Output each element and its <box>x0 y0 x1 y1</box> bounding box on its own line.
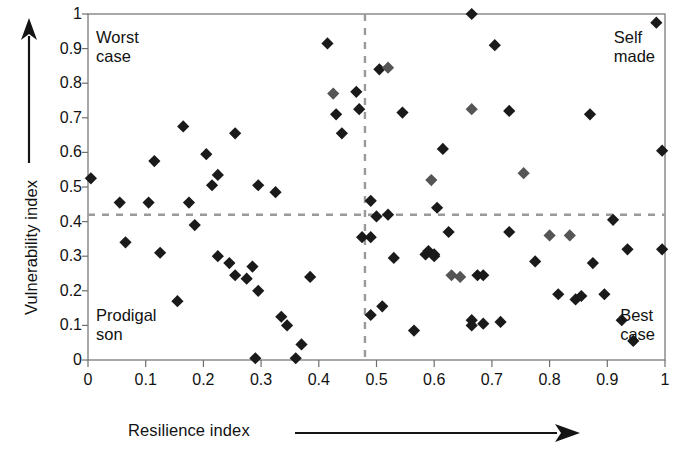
x-tick-label: 0.3 <box>238 372 284 388</box>
x-tick-label: 1 <box>642 372 673 388</box>
data-point <box>382 62 394 74</box>
x-tick-label: 0.8 <box>527 372 573 388</box>
data-point <box>365 231 377 243</box>
data-point <box>382 209 394 221</box>
data-point <box>388 252 400 264</box>
plot-canvas <box>0 0 673 400</box>
data-point <box>189 219 201 231</box>
data-point-group <box>85 8 668 364</box>
data-point <box>304 271 316 283</box>
data-point <box>445 269 457 281</box>
data-point <box>587 257 599 269</box>
data-point <box>650 17 662 29</box>
data-point <box>290 352 302 364</box>
data-point <box>431 202 443 214</box>
data-point <box>365 309 377 321</box>
data-point <box>373 63 385 75</box>
data-point <box>503 226 515 238</box>
x-tick-label: 0.6 <box>411 372 457 388</box>
data-point <box>252 179 264 191</box>
data-point <box>336 127 348 139</box>
data-point <box>177 120 189 132</box>
data-point <box>365 195 377 207</box>
data-point <box>327 87 339 99</box>
data-point <box>656 243 668 255</box>
data-point <box>252 285 264 297</box>
x-tick-label: 0.9 <box>584 372 630 388</box>
data-point <box>437 143 449 155</box>
data-point <box>154 247 166 259</box>
data-point <box>616 314 628 326</box>
data-point <box>529 255 541 267</box>
data-point <box>656 145 668 157</box>
data-point <box>518 167 530 179</box>
data-point <box>489 39 501 51</box>
data-point <box>454 271 466 283</box>
data-point <box>85 172 97 184</box>
data-point <box>171 295 183 307</box>
data-point <box>396 107 408 119</box>
data-point <box>212 250 224 262</box>
scatter-plot-figure: Vulnerability index 10.90.80.70.60.50.40… <box>0 0 673 451</box>
data-point <box>552 288 564 300</box>
data-point <box>408 324 420 336</box>
data-point <box>425 174 437 186</box>
data-point <box>621 243 633 255</box>
data-point <box>206 179 218 191</box>
data-point <box>503 105 515 117</box>
data-point <box>200 148 212 160</box>
x-axis-label-text: Resilience index <box>128 421 250 440</box>
data-point <box>212 169 224 181</box>
data-point <box>114 196 126 208</box>
data-point <box>584 108 596 120</box>
data-point <box>223 257 235 269</box>
x-tick-label: 0.5 <box>354 372 400 388</box>
data-point <box>544 229 556 241</box>
data-point <box>269 186 281 198</box>
data-point <box>246 260 258 272</box>
x-tick-label: 0.4 <box>296 372 342 388</box>
data-point <box>466 103 478 115</box>
x-axis-arrow-icon <box>295 424 580 442</box>
x-tick-label: 0.2 <box>180 372 226 388</box>
data-point <box>119 236 131 248</box>
data-point <box>443 226 455 238</box>
data-point <box>330 108 342 120</box>
x-tick-label: 0.7 <box>469 372 515 388</box>
data-point <box>370 210 382 222</box>
data-point <box>477 318 489 330</box>
data-point <box>350 86 362 98</box>
data-point <box>148 155 160 167</box>
data-point <box>376 300 388 312</box>
data-point <box>142 196 154 208</box>
data-point <box>229 127 241 139</box>
data-point <box>241 273 253 285</box>
x-tick-label-group: 00.10.20.30.40.50.60.70.80.91 <box>0 372 673 396</box>
data-point <box>249 352 261 364</box>
data-point <box>183 196 195 208</box>
plot-border <box>88 14 665 360</box>
x-tick-label: 0 <box>65 372 111 388</box>
data-point <box>353 103 365 115</box>
data-point <box>229 269 241 281</box>
data-point <box>466 8 478 20</box>
data-point <box>494 316 506 328</box>
data-point <box>564 229 576 241</box>
data-point <box>598 288 610 300</box>
data-point <box>295 338 307 350</box>
data-point <box>627 335 639 347</box>
data-point <box>321 37 333 49</box>
x-tick-label: 0.1 <box>123 372 169 388</box>
